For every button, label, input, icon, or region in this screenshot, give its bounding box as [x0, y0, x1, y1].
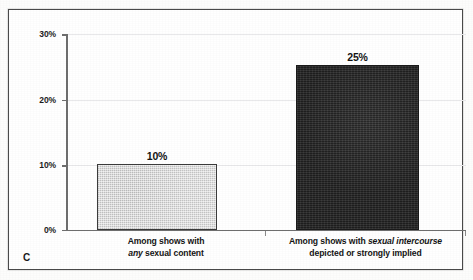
y-axis-tick-label-30: 30%: [39, 29, 56, 39]
category-label-0-italic: any: [128, 248, 143, 258]
category-label-0-line2-tail: sexual content: [143, 248, 204, 258]
category-label-1-italic: sexual intercourse: [368, 236, 442, 246]
y-tick-mark-10: 10%: [62, 165, 66, 167]
category-label-1-line1: Among shows with: [289, 236, 368, 246]
category-label-0-line1: Among shows with: [128, 236, 205, 246]
gridline-30: [66, 34, 466, 35]
plot-area: 30% 20% 10% 0% 10% 25%: [66, 34, 466, 231]
y-axis-line: [66, 34, 68, 231]
bar-value-label-1: 25%: [347, 51, 367, 63]
y-tick-mark-30: 30%: [62, 34, 66, 36]
category-label-1-line2: depicted or strongly implied: [309, 248, 421, 258]
figure-root: C 30% 20% 10% 0%: [0, 0, 473, 280]
category-label-1: Among shows with sexual intercourse depi…: [263, 236, 468, 259]
panel-letter: C: [23, 252, 30, 263]
bar-value-label-0: 10%: [147, 150, 167, 162]
y-axis-tick-label-20: 20%: [39, 95, 56, 105]
y-axis-tick-label-10: 10%: [39, 160, 56, 170]
bar-sexual-intercourse[interactable]: 25%: [296, 65, 419, 229]
y-tick-mark-0: 0%: [62, 230, 66, 232]
figure-frame: C 30% 20% 10% 0%: [8, 9, 463, 270]
y-tick-mark-20: 20%: [62, 100, 66, 102]
bar-any-sexual-content[interactable]: 10%: [97, 164, 217, 230]
category-label-0: Among shows with any sexual content: [66, 236, 266, 259]
y-axis-tick-label-0: 0%: [44, 225, 56, 235]
